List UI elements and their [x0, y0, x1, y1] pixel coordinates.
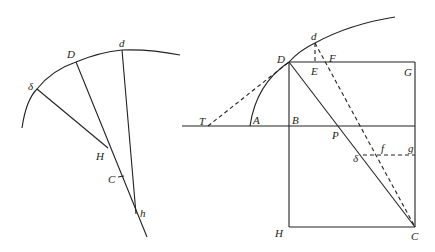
- label-left-C: C: [108, 173, 116, 185]
- label-left-d: d: [119, 37, 125, 49]
- left-arc: [22, 50, 180, 128]
- geometry-diagram: δ D d H C h d D E F G T A B P δ f g H: [0, 0, 435, 252]
- label-left-h: h: [140, 207, 146, 219]
- label-left-D: D: [66, 48, 75, 60]
- label-right-B: B: [292, 114, 299, 126]
- line-d-to-h: [122, 50, 136, 214]
- label-left-delta: δ: [28, 80, 34, 92]
- label-right-P: P: [331, 129, 339, 141]
- line-D-through-H-C-h: [76, 62, 147, 237]
- tangent-T-D: [208, 62, 289, 126]
- label-right-H: H: [274, 227, 284, 239]
- label-right-d: d: [311, 30, 317, 42]
- label-right-F: F: [328, 52, 336, 64]
- label-right-E: E: [310, 65, 318, 77]
- label-left-H: H: [95, 150, 105, 162]
- label-right-D: D: [276, 53, 285, 65]
- label-right-C: C: [411, 230, 419, 242]
- label-right-f: f: [381, 142, 386, 154]
- label-right-A: A: [252, 114, 260, 126]
- dashed-d-C: [315, 43, 415, 227]
- right-arc: [250, 17, 395, 126]
- label-right-delta: δ: [353, 152, 359, 164]
- diagonal-D-C: [289, 62, 415, 227]
- label-right-T: T: [199, 115, 206, 127]
- left-figure: δ D d H C h: [22, 37, 180, 237]
- line-delta-to-H: [37, 89, 108, 148]
- label-right-G: G: [404, 66, 412, 78]
- label-right-g: g: [408, 142, 414, 154]
- right-figure: d D E F G T A B P δ f g H C: [182, 17, 419, 242]
